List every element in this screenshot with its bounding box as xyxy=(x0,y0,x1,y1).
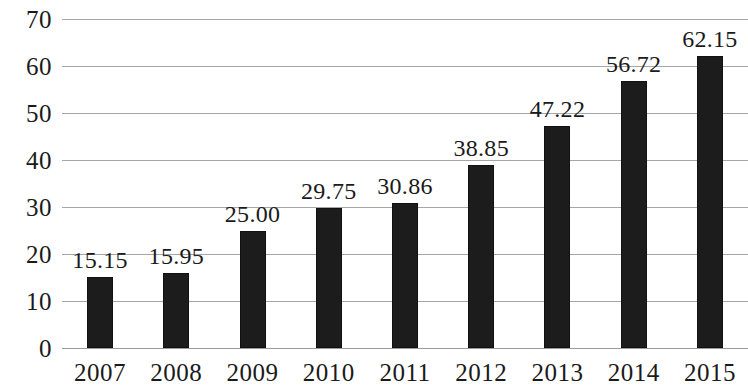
bar-group: 62.152015 xyxy=(672,0,748,389)
bar-group: 15.152007 xyxy=(62,0,138,389)
bar-value-label: 25.00 xyxy=(225,202,281,226)
bar[interactable] xyxy=(240,231,266,349)
y-axis-tick-label: 30 xyxy=(6,195,52,220)
bar-group: 38.852012 xyxy=(443,0,519,389)
x-axis-category-label: 2009 xyxy=(227,360,279,385)
bar[interactable] xyxy=(697,56,723,348)
x-axis-category-label: 2007 xyxy=(74,360,126,385)
bar[interactable] xyxy=(621,81,647,348)
bar[interactable] xyxy=(544,126,570,348)
x-axis-category-label: 2012 xyxy=(455,360,507,385)
y-axis-tick-label: 10 xyxy=(6,289,52,314)
x-axis-category-label: 2010 xyxy=(303,360,355,385)
bar[interactable] xyxy=(163,273,189,348)
bar-group: 47.222013 xyxy=(519,0,595,389)
x-axis-category-label: 2008 xyxy=(150,360,202,385)
x-axis-category-label: 2014 xyxy=(608,360,660,385)
bar-group: 25.002009 xyxy=(214,0,290,389)
x-axis-category-label: 2013 xyxy=(531,360,583,385)
bar-chart: 706050403020100 15.15200715.95200825.002… xyxy=(0,0,748,389)
bars-layer: 15.15200715.95200825.00200929.75201030.8… xyxy=(62,0,748,389)
bar-value-label: 15.15 xyxy=(72,248,128,272)
bar-group: 56.722014 xyxy=(596,0,672,389)
bar-value-label: 30.86 xyxy=(377,174,433,198)
bar-value-label: 56.72 xyxy=(606,52,662,76)
y-axis: 706050403020100 xyxy=(0,0,52,389)
y-axis-tick-label: 50 xyxy=(6,101,52,126)
bar-group: 29.752010 xyxy=(291,0,367,389)
bar-value-label: 38.85 xyxy=(453,136,509,160)
x-axis-category-label: 2011 xyxy=(379,360,430,385)
y-axis-tick-label: 70 xyxy=(6,7,52,32)
bar-value-label: 47.22 xyxy=(530,97,586,121)
y-axis-tick-label: 0 xyxy=(6,336,52,361)
bar[interactable] xyxy=(392,203,418,348)
y-axis-tick-label: 20 xyxy=(6,242,52,267)
y-axis-tick-label: 60 xyxy=(6,54,52,79)
bar-group: 15.952008 xyxy=(138,0,214,389)
bar-value-label: 62.15 xyxy=(682,27,738,51)
bar[interactable] xyxy=(87,277,113,348)
bar[interactable] xyxy=(468,165,494,348)
bar-value-label: 15.95 xyxy=(149,244,205,268)
bar-group: 30.862011 xyxy=(367,0,443,389)
bar-value-label: 29.75 xyxy=(301,179,357,203)
y-axis-tick-label: 40 xyxy=(6,148,52,173)
plot-area: 15.15200715.95200825.00200929.75201030.8… xyxy=(62,0,748,389)
x-axis-category-label: 2015 xyxy=(684,360,736,385)
bar[interactable] xyxy=(316,208,342,348)
